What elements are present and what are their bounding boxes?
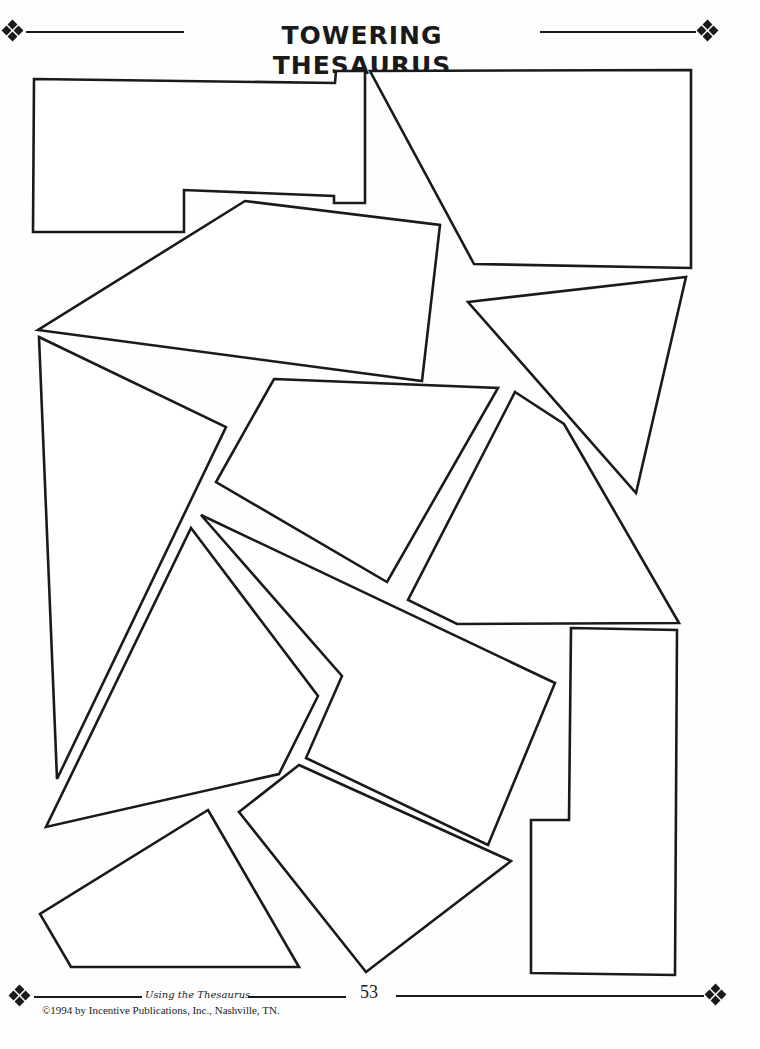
diamond-cluster-icon bbox=[9, 985, 31, 1007]
puzzle-piece-1[interactable] bbox=[33, 71, 365, 232]
puzzle-pieces bbox=[0, 0, 760, 1049]
puzzle-piece-10[interactable] bbox=[531, 628, 677, 975]
worksheet-page: TOWERING THESAURUS Using the Thesaurus 5… bbox=[0, 0, 760, 1049]
footer-rule-left bbox=[34, 996, 142, 998]
footer-rule-right bbox=[396, 995, 704, 997]
diamond-cluster-icon bbox=[705, 984, 727, 1006]
page-number: 53 bbox=[360, 982, 378, 1003]
book-title: Using the Thesaurus bbox=[145, 989, 250, 1000]
footer-rule-middle bbox=[248, 996, 346, 998]
copyright-notice: ©1994 by Incentive Publications, Inc., N… bbox=[42, 1004, 280, 1016]
